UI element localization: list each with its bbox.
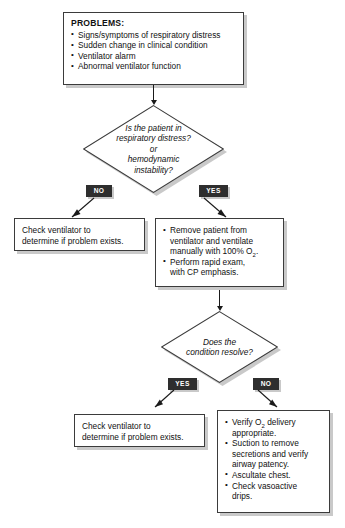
decision-two-text: Does the condition resolve? — [161, 311, 278, 383]
list-item: Suction to remove secretions and verify … — [225, 438, 323, 470]
list-item: Sudden change in clinical condition — [71, 40, 237, 51]
remove-patient-item-2-line-1: Perform rapid exam, — [170, 257, 245, 267]
interventions-item-4-line-2: drips. — [232, 491, 252, 501]
list-item: Ventilator alarm — [71, 51, 237, 62]
remove-patient-item-1-line-1: Remove patient from — [170, 225, 247, 235]
decision-one-line-1: Is the patient in — [125, 123, 181, 133]
decision-two-diamond: Does the condition resolve? — [161, 311, 278, 383]
list-item: Ascultate chest. — [225, 470, 323, 481]
check-ventilator-left-line-2: determine if problem exists. — [22, 236, 138, 247]
problems-box-header: PROBLEMS: — [71, 18, 237, 29]
check-ventilator-bottom-line-2: determine if problem exists. — [82, 432, 198, 443]
flowchart-canvas: PROBLEMS: Signs/symptoms of respiratory … — [0, 0, 345, 528]
decision-one-line-5: instability? — [134, 165, 173, 175]
decision-one-line-3: or — [150, 144, 157, 154]
remove-patient-item-2-line-2: with CP emphasis. — [170, 267, 239, 277]
check-ventilator-left-box: Check ventilator to determine if problem… — [14, 218, 145, 251]
decision-two-line-1: Does the — [203, 337, 236, 347]
remove-patient-box: Remove patient from ventilator and venti… — [155, 218, 284, 287]
remove-patient-item-1-line-2: ventilator and ventilate — [170, 236, 253, 246]
list-item: Verify O2 delivery appropriate. — [225, 417, 323, 438]
list-item: Perform rapid exam, with CP emphasis. — [163, 257, 277, 278]
decision-two-line-2: condition resolve? — [186, 347, 253, 357]
decision-one-line-2: respiratory distress? — [116, 133, 191, 143]
interventions-box: Verify O2 delivery appropriate. Suction … — [217, 410, 330, 513]
list-item: Signs/symptoms of respiratory distress — [71, 30, 237, 41]
check-ventilator-left-line-1: Check ventilator to — [22, 225, 138, 236]
problems-box: PROBLEMS: Signs/symptoms of respiratory … — [63, 12, 244, 85]
interventions-item-2-line-3: airway patency. — [232, 459, 289, 469]
interventions-item-2-line-1: Suction to remove — [232, 438, 299, 448]
connector-decision-two-yes — [146, 388, 182, 414]
interventions-item-1-line-1: Verify O2 delivery — [232, 417, 296, 427]
interventions-item-3-line-1: Ascultate chest. — [232, 470, 291, 480]
check-ventilator-bottom-line-1: Check ventilator to — [82, 421, 198, 432]
interventions-item-2-line-2: secretions and verify — [232, 449, 308, 459]
interventions-item-1-line-2: appropriate. — [232, 428, 276, 438]
list-item: Abnormal ventilator function — [71, 61, 237, 72]
interventions-item-4-line-1: Check vasoactive — [232, 481, 297, 491]
check-ventilator-bottom-box: Check ventilator to determine if problem… — [74, 414, 205, 447]
remove-patient-item-1-line-3: manually with 100% O2. — [170, 246, 258, 256]
decision-one-line-4: hemodynamic — [128, 154, 180, 164]
decision-one-diamond: Is the patient in respiratory distress? … — [83, 105, 224, 193]
list-item: Check vasoactive drips. — [225, 481, 323, 502]
decision-one-text: Is the patient in respiratory distress? … — [83, 105, 224, 193]
problems-box-list: Signs/symptoms of respiratory distress S… — [71, 30, 237, 72]
remove-patient-list: Remove patient from ventilator and venti… — [163, 225, 277, 278]
interventions-list: Verify O2 delivery appropriate. Suction … — [225, 417, 323, 502]
list-item: Remove patient from ventilator and venti… — [163, 225, 277, 257]
